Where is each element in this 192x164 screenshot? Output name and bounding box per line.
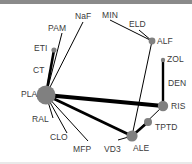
graph-node-ale[interactable]: [126, 130, 137, 141]
graph-node-eti[interactable]: [51, 47, 56, 52]
node-label-ral: RAL: [32, 115, 49, 124]
node-label-zol: ZOL: [167, 55, 184, 64]
graph-node-zol[interactable]: [161, 58, 165, 62]
graph-node-tptd[interactable]: [144, 118, 152, 126]
graph-node-pla[interactable]: [37, 86, 56, 105]
nodes-group: [37, 38, 169, 142]
node-label-clo: CLO: [50, 133, 68, 142]
node-label-naf: NaF: [75, 12, 91, 21]
graph-svg: [0, 0, 192, 164]
node-label-mfp: MFP: [73, 145, 91, 154]
node-label-eld: ELD: [129, 20, 146, 29]
graph-edge: [46, 33, 62, 95]
node-label-ale: ALE: [133, 144, 149, 153]
node-label-alf: ALF: [157, 37, 173, 46]
network-graph-canvas: PLAETICTPAMNaFMINELDALFZOLDENRISTPTDALEV…: [0, 0, 192, 164]
node-label-ris: RIS: [171, 102, 185, 111]
graph-node-alf[interactable]: [149, 38, 156, 45]
node-label-vd3: VD3: [104, 145, 121, 154]
node-label-eti: ETI: [34, 44, 48, 53]
node-label-pam: PAM: [48, 24, 66, 33]
node-label-min: MIN: [102, 11, 118, 20]
node-label-ct: CT: [33, 66, 45, 75]
bottom-border-strip: [0, 162, 192, 164]
node-label-pla: PLA: [21, 90, 37, 99]
node-label-den: DEN: [168, 79, 186, 88]
node-label-tptd: TPTD: [155, 123, 178, 132]
graph-node-ris[interactable]: [158, 101, 168, 111]
